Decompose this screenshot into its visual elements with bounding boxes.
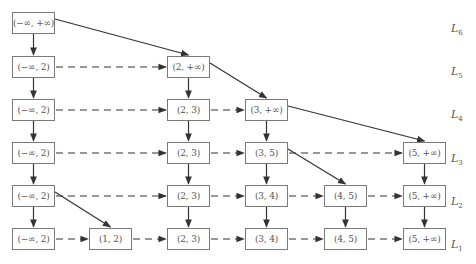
diagonal-arrow bbox=[55, 19, 189, 55]
level-label-l3: L3 bbox=[451, 152, 463, 167]
diagonal-arrow bbox=[55, 192, 111, 227]
interval-node: (3, 4) bbox=[245, 228, 288, 250]
interval-node: (5, +∞) bbox=[403, 142, 446, 164]
level-index: 4 bbox=[458, 115, 462, 123]
interval-node: (2, 3) bbox=[167, 99, 210, 121]
level-label-l5: L5 bbox=[451, 65, 463, 80]
diagonal-arrow bbox=[288, 106, 425, 141]
diagonal-arrow bbox=[210, 63, 267, 98]
interval-node: (3, +∞) bbox=[245, 99, 288, 121]
interval-node: (−∞, 2) bbox=[12, 99, 55, 121]
interval-node: (2, 3) bbox=[167, 228, 210, 250]
interval-node: (3, 5) bbox=[245, 142, 288, 164]
level-label-l6: L6 bbox=[451, 22, 463, 37]
interval-node: (−∞, +∞) bbox=[12, 12, 55, 34]
level-index: 2 bbox=[458, 202, 462, 210]
level-label-l2: L2 bbox=[451, 195, 463, 210]
diagonal-arrow bbox=[288, 149, 346, 184]
interval-node: (1, 2) bbox=[89, 228, 132, 250]
level-label-l1: L1 bbox=[451, 238, 463, 253]
interval-node: (2, 3) bbox=[167, 185, 210, 207]
interval-node: (4, 5) bbox=[324, 185, 367, 207]
interval-node: (2, +∞) bbox=[167, 56, 210, 78]
interval-node: (2, 3) bbox=[167, 142, 210, 164]
interval-node: (−∞, 2) bbox=[12, 228, 55, 250]
interval-node: (5, +∞) bbox=[403, 185, 446, 207]
level-index: 5 bbox=[458, 72, 462, 80]
interval-node: (5, +∞) bbox=[403, 228, 446, 250]
interval-node: (−∞, 2) bbox=[12, 185, 55, 207]
edges-layer bbox=[0, 0, 476, 264]
interval-node: (−∞, 2) bbox=[12, 142, 55, 164]
interval-node: (4, 5) bbox=[324, 228, 367, 250]
interval-node: (3, 4) bbox=[245, 185, 288, 207]
skip-list-diagram: (−∞, +∞)(−∞, 2)(2, +∞)(−∞, 2)(2, 3)(3, +… bbox=[0, 0, 476, 264]
level-label-l4: L4 bbox=[451, 108, 463, 123]
level-index: 3 bbox=[458, 159, 462, 167]
level-index: 6 bbox=[458, 29, 462, 37]
interval-node: (−∞, 2) bbox=[12, 56, 55, 78]
level-index: 1 bbox=[458, 245, 462, 253]
